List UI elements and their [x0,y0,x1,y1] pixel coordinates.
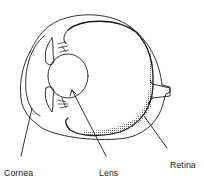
cornea-pointer [21,108,32,156]
lens-label: Lens [99,167,118,178]
cornea-outline [26,36,44,116]
retina-stipple [84,50,154,136]
retina-label: Retina [170,159,196,170]
cornea-label: Cornea [4,167,33,178]
ciliary-lower [58,98,68,108]
iris-upper [45,38,54,65]
retina-pointer [144,116,167,148]
lens-pointer [70,90,106,156]
lens [48,54,88,98]
ciliary-upper [58,42,68,52]
